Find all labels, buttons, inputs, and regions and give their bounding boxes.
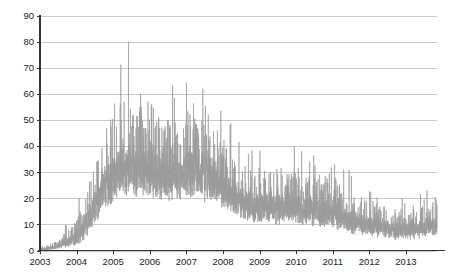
x-tick-label-2004: 2004 [66,256,87,267]
x-tick-label-2013: 2013 [395,256,416,267]
chart-container: 0102030405060708090 20032004200520062007… [0,0,453,277]
x-tick-label-2003: 2003 [29,256,50,267]
x-tick-label-2008: 2008 [212,256,233,267]
x-tick-label-2005: 2005 [103,256,124,267]
y-tick-label-30: 30 [23,167,34,178]
chart-background [0,0,453,277]
x-tick-label-2009: 2009 [249,256,270,267]
y-tick-label-50: 50 [23,114,34,125]
x-tick-label-2007: 2007 [176,256,197,267]
y-tick-label-70: 70 [23,62,34,73]
y-tick-label-0: 0 [29,245,34,256]
y-tick-label-80: 80 [23,36,34,47]
x-tick-label-2012: 2012 [359,256,380,267]
time-series-chart: 0102030405060708090 20032004200520062007… [0,0,453,277]
y-tick-label-40: 40 [23,140,34,151]
x-tick-label-2011: 2011 [323,256,343,267]
y-tick-label-90: 90 [23,10,34,21]
x-tick-label-2010: 2010 [286,256,307,267]
y-tick-label-20: 20 [23,193,34,204]
y-tick-label-60: 60 [23,88,34,99]
x-tick-label-2006: 2006 [139,256,160,267]
y-tick-label-10: 10 [23,219,34,230]
